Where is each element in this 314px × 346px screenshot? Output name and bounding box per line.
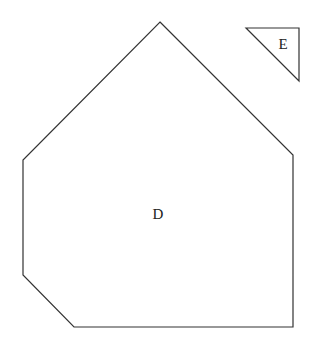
label-d: D (153, 206, 164, 222)
geometry-diagram: D E (0, 0, 314, 346)
triangle-e (246, 28, 299, 81)
polygon-d (23, 22, 293, 327)
label-e: E (278, 36, 287, 52)
